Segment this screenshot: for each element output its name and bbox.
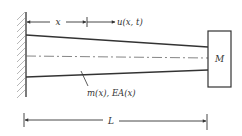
bar-top-edge: [26, 35, 208, 47]
mass-label: M: [214, 54, 225, 64]
length-dimension: L: [24, 113, 207, 130]
displacement-arrow: u(x, t): [87, 17, 143, 27]
x-label: x: [55, 17, 60, 27]
leader-line: [81, 71, 88, 86]
end-mass: M: [208, 31, 231, 87]
bar-centerline: [26, 56, 208, 58]
fixed-wall: [17, 12, 26, 98]
length-label: L: [107, 116, 114, 126]
tapered-bar: [26, 35, 208, 77]
wall-hatching: [17, 12, 25, 98]
displacement-label: u(x, t): [117, 17, 143, 27]
properties-label: m(x), EA(x): [87, 88, 136, 98]
bar-bottom-edge: [26, 70, 208, 77]
x-dimension: x: [27, 17, 87, 27]
bar-diagram: x u(x, t) M m(x), EA(x) L: [0, 0, 242, 136]
